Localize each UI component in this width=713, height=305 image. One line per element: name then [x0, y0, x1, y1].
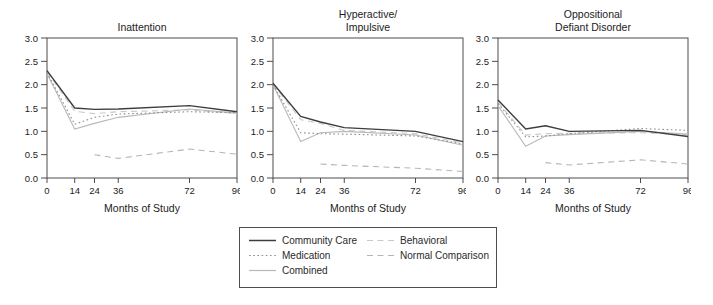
- plot-frame: [498, 38, 688, 178]
- y-tick-label: 1.5: [251, 103, 264, 114]
- y-tick-label: 3.0: [251, 33, 264, 44]
- series-line-medication: [47, 73, 237, 125]
- series-line-community-care: [47, 71, 237, 112]
- legend-column-2: BehavioralNormal Comparison: [367, 235, 489, 287]
- legend-line-sample-normal-comparison: [367, 253, 394, 258]
- x-axis: 01424367296: [44, 178, 240, 196]
- y-tick-label: 1.5: [25, 103, 38, 114]
- series-line-normal-comparison: [321, 164, 464, 171]
- mta-outcomes-figure: Inattention3.02.52.01.51.00.50.001424367…: [0, 0, 713, 305]
- y-tick-label: 3.0: [476, 33, 489, 44]
- y-tick-label: 0.0: [25, 173, 38, 184]
- legend-label: Normal Comparison: [400, 250, 489, 261]
- chart-title-line: Inattention: [117, 21, 166, 33]
- line-chart-hyperactive-impulsive: Hyperactive/Impulsive3.02.52.01.51.00.50…: [226, 0, 466, 222]
- y-tick-label: 0.5: [25, 149, 38, 160]
- y-tick-label: 2.5: [476, 56, 489, 67]
- series-line-combined: [498, 106, 688, 147]
- series-line-combined: [47, 73, 237, 129]
- x-tick-label: 0: [44, 185, 49, 196]
- y-tick-label: 2.5: [251, 56, 264, 67]
- x-tick-label: 36: [339, 185, 350, 196]
- x-tick-label: 72: [410, 185, 421, 196]
- y-tick-label: 3.0: [25, 33, 38, 44]
- x-axis-title: Months of Study: [104, 202, 181, 214]
- chart-legend: Community CareMedicationCombinedBehavior…: [239, 227, 497, 288]
- x-tick-label: 24: [540, 185, 551, 196]
- legend-item-community-care: Community Care: [249, 235, 357, 246]
- chart-title-line: Hyperactive/: [339, 8, 397, 20]
- x-tick-label: 72: [184, 185, 195, 196]
- line-chart-oppositional-defiant-disorder: OppositionalDefiant Disorder3.02.52.01.5…: [451, 0, 691, 222]
- y-tick-label: 1.0: [476, 126, 489, 137]
- y-axis: 3.02.52.01.51.00.50.0: [251, 33, 273, 184]
- series-line-combined: [273, 85, 463, 146]
- legend-column-1: Community CareMedicationCombined: [249, 235, 357, 287]
- x-tick-label: 96: [683, 185, 691, 196]
- series-group: [498, 100, 688, 165]
- y-tick-label: 1.5: [476, 103, 489, 114]
- legend-label: Community Care: [282, 235, 357, 246]
- x-axis-title: Months of Study: [555, 202, 632, 214]
- x-tick-label: 36: [564, 185, 575, 196]
- series-line-behavioral: [498, 102, 688, 135]
- x-axis: 01424367296: [495, 178, 691, 196]
- x-tick-label: 36: [113, 185, 124, 196]
- y-tick-label: 0.0: [251, 173, 264, 184]
- y-tick-label: 2.5: [25, 56, 38, 67]
- legend-line-sample-behavioral: [367, 238, 394, 243]
- y-tick-label: 1.0: [251, 126, 264, 137]
- chart-title: Inattention: [117, 21, 166, 33]
- x-tick-label: 24: [315, 185, 326, 196]
- legend-line-sample-community-care: [249, 238, 276, 243]
- x-axis: 01424367296: [270, 178, 466, 196]
- legend-item-normal-comparison: Normal Comparison: [367, 250, 489, 261]
- x-tick-label: 0: [270, 185, 275, 196]
- line-chart-inattention: Inattention3.02.52.01.51.00.50.001424367…: [0, 0, 240, 222]
- x-tick-label: 14: [295, 185, 306, 196]
- legend-item-behavioral: Behavioral: [367, 235, 489, 246]
- chart-title-line: Impulsive: [346, 21, 391, 33]
- legend-line-sample-combined: [249, 268, 276, 273]
- legend-label: Combined: [282, 265, 328, 276]
- series-line-behavioral: [273, 84, 463, 143]
- legend-item-medication: Medication: [249, 250, 357, 261]
- chart-title-line: Oppositional: [564, 8, 622, 20]
- x-tick-label: 14: [520, 185, 531, 196]
- x-tick-label: 14: [69, 185, 80, 196]
- chart-title-line: Defiant Disorder: [555, 21, 631, 33]
- chart-title: Hyperactive/Impulsive: [339, 8, 397, 33]
- y-tick-label: 2.0: [476, 79, 489, 90]
- series-line-normal-comparison: [546, 160, 689, 165]
- x-tick-label: 72: [635, 185, 646, 196]
- plot-frame: [273, 38, 463, 178]
- y-axis: 3.02.52.01.51.00.50.0: [25, 33, 47, 184]
- x-axis-title: Months of Study: [330, 202, 407, 214]
- legend-item-combined: Combined: [249, 265, 357, 276]
- legend-label: Behavioral: [400, 235, 447, 246]
- y-tick-label: 0.5: [251, 149, 264, 160]
- y-tick-label: 1.0: [25, 126, 38, 137]
- series-line-medication: [498, 103, 688, 137]
- y-axis: 3.02.52.01.51.00.50.0: [476, 33, 498, 184]
- legend-label: Medication: [282, 250, 330, 261]
- series-line-normal-comparison: [95, 149, 238, 158]
- x-tick-label: 24: [89, 185, 100, 196]
- x-tick-label: 0: [495, 185, 500, 196]
- chart-title: OppositionalDefiant Disorder: [555, 8, 631, 33]
- y-tick-label: 0.5: [476, 149, 489, 160]
- y-tick-label: 2.0: [251, 79, 264, 90]
- y-tick-label: 0.0: [476, 173, 489, 184]
- series-group: [273, 83, 463, 171]
- series-line-community-care: [498, 100, 688, 136]
- y-tick-label: 2.0: [25, 79, 38, 90]
- legend-line-sample-medication: [249, 253, 276, 258]
- series-group: [47, 71, 237, 159]
